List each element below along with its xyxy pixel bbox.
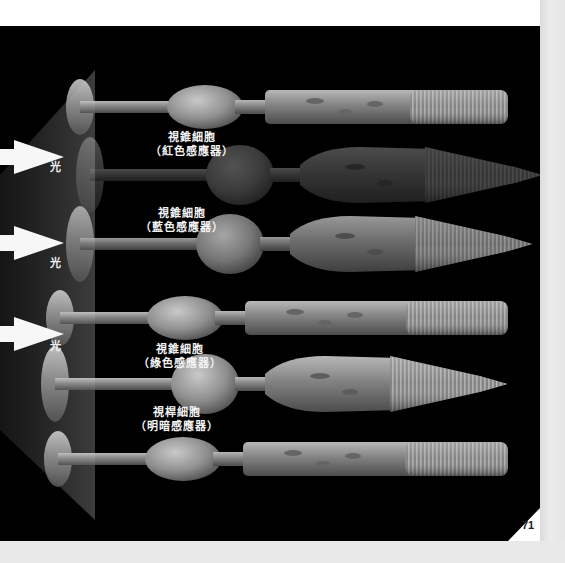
page-number: 71: [522, 519, 534, 531]
cell-name: 視錐細胞: [138, 343, 222, 357]
cell-function: （綠色感應器）: [138, 357, 222, 371]
cell-name: 視桿細胞: [135, 406, 219, 420]
cone-cell: [76, 137, 540, 213]
rod-cell: [46, 290, 508, 346]
cell-name: 視錐細胞: [150, 131, 234, 145]
cell-name: 視錐細胞: [140, 207, 224, 221]
rod-cell: [66, 79, 508, 135]
light-label: 光: [50, 337, 61, 353]
cell-label-blue-cone: 視錐細胞 （藍色感應器）: [140, 207, 224, 235]
rod-cell: [44, 431, 508, 487]
cell-label-rod: 視桿細胞 （明暗感應器）: [135, 406, 219, 434]
cell-function: （明暗感應器）: [135, 420, 219, 434]
cone-cell: [41, 346, 508, 422]
illustration-panel: [0, 26, 540, 541]
light-label: 光: [50, 158, 61, 174]
light-label: 光: [50, 254, 61, 270]
cell-function: （藍色感應器）: [140, 221, 224, 235]
photoreceptor-cells-illustration: [0, 26, 540, 541]
page-gutter: [540, 0, 565, 563]
cell-label-red-cone: 視錐細胞 （紅色感應器）: [150, 131, 234, 159]
cell-function: （紅色感應器）: [150, 145, 234, 159]
cell-label-green-cone: 視錐細胞 （綠色感應器）: [138, 343, 222, 371]
cone-cell: [66, 206, 533, 282]
page-bottom-margin: [0, 541, 565, 563]
